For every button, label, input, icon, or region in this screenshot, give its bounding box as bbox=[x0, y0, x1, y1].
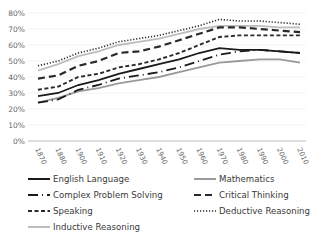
svg-text:2010: 2010 bbox=[295, 146, 310, 166]
shortdash-line-icon bbox=[28, 208, 50, 214]
svg-text:1870: 1870 bbox=[33, 146, 48, 166]
svg-text:1940: 1940 bbox=[154, 146, 169, 166]
legend-label: Complex Problem Solving bbox=[53, 190, 163, 200]
solid-line-icon bbox=[28, 224, 50, 230]
legend-label: Mathematics bbox=[219, 174, 274, 184]
legend-item-speaking: Speaking bbox=[28, 206, 93, 216]
legend-item-english-language: English Language bbox=[28, 174, 129, 184]
svg-text:10%: 10% bbox=[8, 121, 25, 130]
svg-text:2000: 2000 bbox=[275, 146, 290, 166]
legend-item-complex-problem-solving: Complex Problem Solving bbox=[28, 190, 163, 200]
svg-text:30%: 30% bbox=[8, 89, 25, 98]
y-axis-ticks: 0%10%20%30%40%50%60%70%80% bbox=[8, 9, 25, 146]
svg-text:20%: 20% bbox=[8, 105, 25, 114]
svg-text:0%: 0% bbox=[13, 137, 25, 146]
svg-text:1980: 1980 bbox=[235, 146, 250, 166]
legend-label: Deductive Reasoning bbox=[219, 206, 310, 216]
line-chart: 0%10%20%30%40%50%60%70%80% 1870188019001… bbox=[0, 0, 314, 175]
legend-label: Speaking bbox=[53, 206, 93, 216]
legend-item-mathematics: Mathematics bbox=[194, 174, 274, 184]
svg-text:70%: 70% bbox=[8, 25, 25, 34]
legend-label: English Language bbox=[53, 174, 129, 184]
svg-text:1900: 1900 bbox=[73, 146, 88, 166]
legend-item-critical-thinking: Critical Thinking bbox=[194, 190, 289, 200]
svg-text:1990: 1990 bbox=[255, 146, 270, 166]
svg-text:1960: 1960 bbox=[194, 146, 209, 166]
x-axis-ticks: 1870188019001910192019301940195019601970… bbox=[33, 146, 310, 166]
svg-text:1950: 1950 bbox=[174, 146, 189, 166]
svg-text:50%: 50% bbox=[8, 57, 25, 66]
gridlines bbox=[28, 13, 306, 141]
svg-text:60%: 60% bbox=[8, 41, 25, 50]
svg-text:80%: 80% bbox=[8, 9, 25, 18]
svg-text:1920: 1920 bbox=[114, 146, 129, 166]
legend-item-inductive-reasoning: Inductive Reasoning bbox=[28, 222, 140, 232]
legend-label: Inductive Reasoning bbox=[53, 222, 140, 232]
solid-line-icon bbox=[194, 176, 216, 182]
svg-text:40%: 40% bbox=[8, 73, 25, 82]
legend-label: Critical Thinking bbox=[219, 190, 289, 200]
longdash-line-icon bbox=[194, 192, 216, 198]
svg-text:1930: 1930 bbox=[134, 146, 149, 166]
dotted-line-icon bbox=[194, 208, 216, 214]
series-english-language bbox=[38, 48, 300, 96]
dashdot-line-icon bbox=[28, 192, 50, 198]
svg-text:1910: 1910 bbox=[94, 146, 109, 166]
svg-text:1970: 1970 bbox=[215, 146, 230, 166]
legend-item-deductive-reasoning: Deductive Reasoning bbox=[194, 206, 310, 216]
series-mathematics bbox=[38, 59, 300, 102]
svg-text:1880: 1880 bbox=[53, 146, 68, 166]
series-complex-problem-solving bbox=[38, 50, 300, 103]
solid-line-icon bbox=[28, 176, 50, 182]
